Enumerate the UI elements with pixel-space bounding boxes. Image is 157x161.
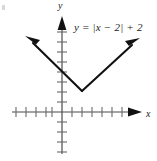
- x-axis-label: x: [146, 108, 150, 119]
- y-axis-arrowhead: [58, 16, 67, 30]
- x-axis-arrowhead: [128, 108, 142, 117]
- absolute-value-graph-figure: y = |x − 2| + 2 y x: [0, 0, 157, 161]
- y-axis-label: y: [58, 0, 62, 11]
- equation-annotation: y = |x − 2| + 2: [74, 21, 143, 33]
- absolute-value-curve: [25, 36, 140, 91]
